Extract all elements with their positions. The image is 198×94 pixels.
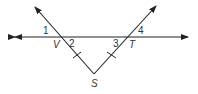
point-S-label: S: [91, 78, 98, 89]
tick-mark-ST: [107, 52, 116, 58]
point-V-label: V: [53, 39, 61, 50]
angle-2-label: 2: [69, 38, 75, 49]
geometry-diagram: 1 2 3 4 V T S: [0, 0, 198, 94]
ray-SV: [35, 7, 94, 74]
left-arrowhead: [14, 34, 22, 40]
ray-ST: [94, 6, 156, 74]
angle-1-label: 1: [43, 25, 49, 36]
angle-3-label: 3: [113, 38, 119, 49]
angle-4-label: 4: [138, 25, 144, 36]
point-T-label: T: [129, 39, 136, 50]
